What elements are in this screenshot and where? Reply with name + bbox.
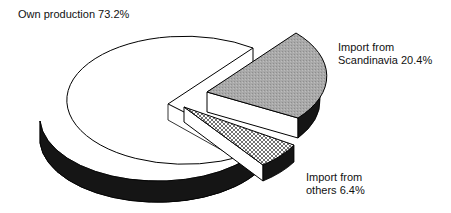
slice-own-production [40,36,259,202]
label-own-text: Own production 73.2% [18,8,129,20]
label-oth-line1: Import from [306,171,365,184]
label-own-production: Own production 73.2% [18,8,129,21]
label-import-scandinavia: Import from Scandinavia 20.4% [338,41,432,67]
label-oth-line2: others 6.4% [306,184,365,197]
label-scan-line2: Scandinavia 20.4% [338,54,432,67]
label-import-others: Import from others 6.4% [306,171,365,197]
label-scan-line1: Import from [338,41,432,54]
pie-chart [0,0,451,213]
